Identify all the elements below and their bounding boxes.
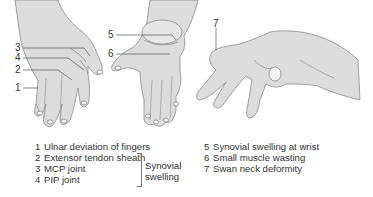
legend-item-6: 6Small muscle wasting <box>204 152 319 163</box>
legend-item-3: 3MCP joint <box>35 163 150 174</box>
hand-swan-neck-illustration <box>197 31 360 118</box>
legend-item-5: 5Synovial swelling at wrist <box>204 141 319 152</box>
synovial-swelling-label: Synovial swelling <box>145 160 181 182</box>
hand-wrist-swelling-illustration <box>111 0 198 126</box>
callout-6: 6 <box>108 49 114 59</box>
synovial-swelling-bracket <box>137 153 142 187</box>
callout-7: 7 <box>213 19 219 29</box>
callout-5: 5 <box>108 30 114 40</box>
legend-item-1: 1Ulnar deviation of fingers <box>35 141 150 152</box>
callout-1: 1 <box>15 83 21 93</box>
callout-2: 2 <box>15 65 21 75</box>
legend-right: 5Synovial swelling at wrist 6Small muscl… <box>204 141 319 174</box>
legend-left: 1Ulnar deviation of fingers 2Extensor te… <box>35 141 150 185</box>
legend-item-2: 2Extensor tendon sheath <box>35 152 150 163</box>
callout-4: 4 <box>15 53 21 63</box>
legend-item-7: 7Swan neck deformity <box>204 163 319 174</box>
legend-item-4: 4PIP joint <box>35 174 150 185</box>
figure: 3 4 2 1 5 6 7 1Ulnar deviation of finger… <box>0 0 373 197</box>
hand-ulnar-deviation-illustration <box>15 0 103 127</box>
